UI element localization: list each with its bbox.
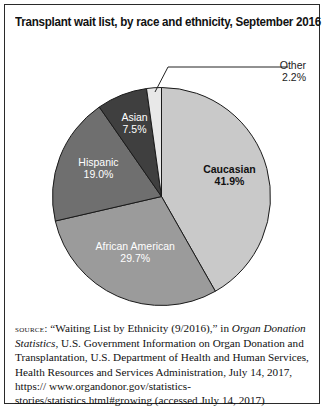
slice-label-name: Caucasian bbox=[203, 163, 256, 175]
source-label: source: bbox=[15, 323, 48, 334]
slice-label-value: 29.7% bbox=[120, 252, 150, 264]
pie-chart: Caucasian41.9%African American29.7%Hispa… bbox=[0, 0, 323, 320]
source-text-post: , U.S. Government Information on Organ D… bbox=[15, 337, 309, 406]
slice-label-name: Asian bbox=[121, 111, 147, 123]
source-text-pre: “Waiting List by Ethnicity (9/2016),” in bbox=[48, 322, 232, 334]
slice-label-name: African American bbox=[96, 240, 176, 252]
slice-label-name: Hispanic bbox=[78, 156, 118, 168]
slice-label-value: 2.2% bbox=[282, 71, 306, 83]
slice-label-value: 41.9% bbox=[215, 175, 245, 187]
slice-label-value: 7.5% bbox=[123, 123, 147, 135]
slice-label-name: Other bbox=[280, 59, 307, 71]
source-note: source: “Waiting List by Ethnicity (9/20… bbox=[15, 321, 315, 407]
slice-label-value: 19.0% bbox=[84, 168, 114, 180]
